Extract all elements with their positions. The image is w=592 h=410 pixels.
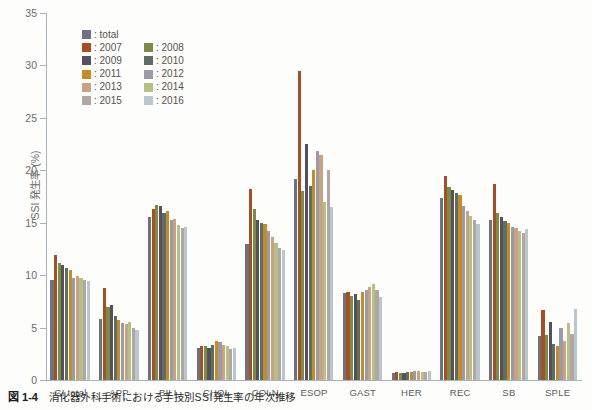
bar-app-2016 <box>135 330 138 380</box>
bars-container <box>290 13 339 380</box>
y-tick-label: 20 <box>25 165 37 176</box>
legend-entry-2014: : 2014 <box>144 82 206 92</box>
x-tick-label-sple: SPLE <box>545 387 570 398</box>
x-tick-label-gast: GAST <box>349 387 376 398</box>
bar-group-gast: GAST <box>338 13 387 380</box>
x-tick-label-rec: REC <box>450 387 471 398</box>
x-axis-line <box>46 380 582 381</box>
legend-swatch-icon <box>82 70 91 79</box>
y-axis-title: SSI 発生率 (%) <box>27 150 42 219</box>
legend-row: : 2009: 2010 <box>82 54 206 67</box>
y-tick-label: 0 <box>31 375 37 386</box>
legend-label: : 2012 <box>156 69 184 79</box>
bar-rec-2016 <box>476 224 479 380</box>
x-tick-label-her: HER <box>401 387 422 398</box>
caption-text: 消化器外科手術における手技別SSI発生率の年次推移 <box>49 389 296 404</box>
legend-entry-2010: : 2010 <box>144 56 206 66</box>
bars-container <box>533 13 582 380</box>
y-tick-label: 30 <box>25 60 37 71</box>
bar-gast-2016 <box>379 297 382 380</box>
chart-legend: : total: 2007: 2008: 2009: 2010: 2011: 2… <box>82 28 206 107</box>
legend-swatch-icon <box>144 56 153 65</box>
bars-container <box>338 13 387 380</box>
legend-entry-2016: : 2016 <box>144 96 206 106</box>
y-tick-label: 25 <box>25 113 37 124</box>
legend-label: : total <box>94 30 118 40</box>
bars-container <box>436 13 485 380</box>
legend-label: : 2015 <box>94 96 122 106</box>
y-tick-label: 5 <box>31 322 37 333</box>
legend-row: : 2011: 2012 <box>82 68 206 81</box>
bar-chol-2016 <box>233 348 236 381</box>
legend-entry-total: : total <box>82 30 144 40</box>
legend-entry-2012: : 2012 <box>144 69 206 79</box>
bar-group-her: HER <box>387 13 436 380</box>
legend-label: : 2014 <box>156 82 184 92</box>
legend-entry-2013: : 2013 <box>82 82 144 92</box>
legend-label: : 2011 <box>94 69 121 79</box>
legend-swatch-icon <box>82 43 91 52</box>
bar-sb-2016 <box>525 229 528 380</box>
legend-row: : total <box>82 28 206 41</box>
legend-swatch-icon <box>144 43 153 52</box>
legend-label: : 2016 <box>156 96 184 106</box>
legend-label: : 2013 <box>94 82 122 92</box>
legend-row: : 2007: 2008 <box>82 41 206 54</box>
bar-her-2016 <box>428 371 431 380</box>
bar-gi-total-2016 <box>87 281 90 380</box>
legend-swatch-icon <box>144 70 153 79</box>
bar-group-sb: SB <box>485 13 534 380</box>
caption-number: 図 1-4 <box>8 388 38 404</box>
legend-swatch-icon <box>82 83 91 92</box>
legend-swatch-icon <box>144 96 153 105</box>
legend-row: : 2015: 2016 <box>82 94 206 107</box>
bar-group-coln: COLN <box>241 13 290 380</box>
legend-swatch-icon <box>144 83 153 92</box>
y-tick-mark <box>40 380 46 381</box>
y-tick-label: 35 <box>25 8 37 19</box>
legend-entry-2011: : 2011 <box>82 69 144 79</box>
bar-group-esop: ESOP <box>290 13 339 380</box>
y-tick-label: 15 <box>25 217 37 228</box>
bars-container <box>241 13 290 380</box>
bar-coln-2016 <box>282 250 285 380</box>
legend-entry-2015: : 2015 <box>82 96 144 106</box>
legend-swatch-icon <box>82 96 91 105</box>
y-tick-label: 10 <box>25 270 37 281</box>
bar-group-sple: SPLE <box>533 13 582 380</box>
x-tick-label-sb: SB <box>502 387 515 398</box>
legend-label: : 2007 <box>94 43 122 53</box>
legend-label: : 2008 <box>156 43 184 53</box>
bar-group-rec: REC <box>436 13 485 380</box>
bars-container <box>485 13 534 380</box>
bar-sple-2016 <box>574 309 577 380</box>
legend-swatch-icon <box>82 30 91 39</box>
figure-container: SSI 発生率 (%) 05101520253035 GI totalAPPBI… <box>0 0 592 410</box>
legend-entry-2009: : 2009 <box>82 56 144 66</box>
bars-container <box>387 13 436 380</box>
legend-label: : 2009 <box>94 56 122 66</box>
legend-row: : 2013: 2014 <box>82 81 206 94</box>
y-axis-title-container: SSI 発生率 (%) <box>0 120 12 250</box>
legend-entry-2007: : 2007 <box>82 43 144 53</box>
legend-swatch-icon <box>82 56 91 65</box>
bar-esop-2016 <box>330 207 333 380</box>
legend-entry-2008: : 2008 <box>144 43 206 53</box>
legend-label: : 2010 <box>156 56 184 66</box>
x-tick-label-esop: ESOP <box>300 387 327 398</box>
figure-caption: 図 1-4 消化器外科手術における手技別SSI発生率の年次推移 <box>8 388 296 404</box>
bar-bili-2016 <box>184 227 187 380</box>
